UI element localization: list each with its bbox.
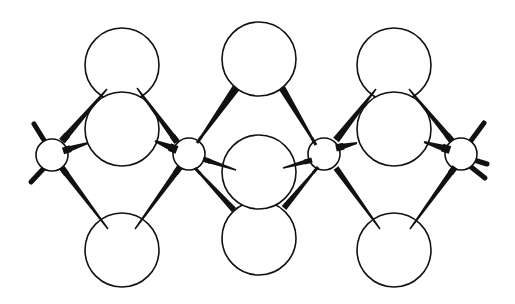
wedge-bond-14 [334,166,381,229]
large-atom-L1-top [85,28,159,102]
bond-tip-1 [63,149,71,151]
small-atom-S1 [36,139,68,171]
bond-tip-0 [62,135,67,141]
stub-bond-4 [471,167,485,178]
bond-tip-13 [336,146,344,148]
large-atoms-layer [85,22,431,287]
wedge-bond-17 [409,165,457,229]
bond-tip-6 [197,136,202,143]
large-atom-L2-top [222,22,296,96]
large-atom-L2-bottom [222,201,296,275]
large-atom-L3-bottom [357,213,431,287]
large-atom-L1-bottom [85,213,159,287]
small-atom-S2 [173,138,205,170]
wedge-bond-9 [279,86,317,145]
bond-tip-5 [175,167,180,173]
wedge-bond-5 [134,165,182,229]
bond-tip-10 [304,160,312,162]
ball-and-stick-diagram [0,0,515,304]
bond-tip-11 [313,167,318,173]
bond-tip-8 [195,168,200,174]
bond-tip-3 [172,136,177,142]
bond-tip-2 [62,168,67,174]
bond-tip-7 [203,159,211,162]
bond-tip-16 [442,148,450,150]
bond-tip-4 [170,147,177,150]
bond-tip-15 [447,135,452,141]
stub-bond-2 [470,123,484,142]
small-atom-S3 [308,138,340,170]
bond-tip-17 [450,167,455,173]
large-atom-L2-mid [222,135,296,209]
stub-bond-1 [31,167,45,182]
molecular-structure-diagram [0,0,515,304]
wedge-bond-6 [196,86,239,144]
wedge-bond-2 [60,166,109,229]
large-atom-L3-top [357,28,431,102]
